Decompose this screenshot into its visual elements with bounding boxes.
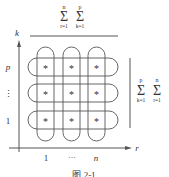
cell-asterisk: * [43,63,48,74]
x-tick-n: n [94,153,99,163]
top-sum-outer-symbol: Σ [60,9,68,24]
cell-asterisk: * [69,89,74,100]
y-tick-p: p [5,62,11,72]
top-sum-inner-lower: k=1 [76,23,85,29]
top-sum-inner-symbol: Σ [76,9,84,24]
right-sum-outer-symbol: Σ [137,83,145,98]
right-sum-inner-symbol: Σ [153,83,161,98]
double-sum-diagram: n Σ r=1 p Σ k=1 p Σ k=1 n Σ r=1 k r p ⋮ … [0,0,169,177]
right-sum-outer-lower: k=1 [137,97,146,103]
x-axis-label: r [135,143,139,153]
cell-asterisk: * [94,63,99,74]
x-axis-arrow-icon [125,146,132,150]
cell-asterisk: * [43,89,48,100]
top-summation: n Σ r=1 p Σ k=1 [30,4,118,36]
x-tick-1: 1 [44,153,49,163]
y-axis-label: k [15,28,20,38]
top-sum-outer-lower: r=1 [60,23,68,29]
cell-markers: * * * * * * * * * [43,63,99,127]
cell-asterisk: * [94,116,99,127]
cell-asterisk: * [69,63,74,74]
figure-caption: 图 2-1 [72,170,95,177]
y-tick-ellipsis: ⋮ [4,89,13,99]
cell-asterisk: * [69,116,74,127]
y-axis-arrow-icon [17,40,21,47]
cell-asterisk: * [94,89,99,100]
x-tick-ellipsis: ··· [68,153,76,162]
right-summation: p Σ k=1 n Σ r=1 [130,58,161,128]
y-tick-1: 1 [6,116,11,126]
right-sum-inner-lower: r=1 [153,97,161,103]
cell-asterisk: * [43,116,48,127]
